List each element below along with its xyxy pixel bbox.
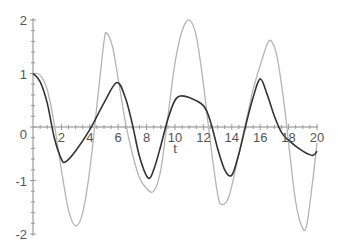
x-tick-label: 16 xyxy=(253,130,267,145)
x-tick-label: 14 xyxy=(225,130,239,145)
y-tick-label: 2 xyxy=(20,13,27,28)
x-tick-label: 20 xyxy=(310,130,324,145)
axes xyxy=(30,18,318,236)
x-tick-label: 2 xyxy=(58,130,65,145)
y-tick-label: -1 xyxy=(15,174,27,189)
x-tick-label: 18 xyxy=(281,130,295,145)
x-tick-label: 8 xyxy=(143,130,150,145)
y-tick-label: 0 xyxy=(20,127,27,142)
x-tick-label: 6 xyxy=(115,130,122,145)
line-chart: 2468101214161820t-2-1012 xyxy=(0,0,338,251)
x-axis-label: t xyxy=(173,141,177,156)
y-tick-label: -2 xyxy=(15,227,27,242)
x-tick-label: 12 xyxy=(196,130,210,145)
x-tick-label: 4 xyxy=(86,130,93,145)
y-tick-label: 1 xyxy=(20,67,27,82)
